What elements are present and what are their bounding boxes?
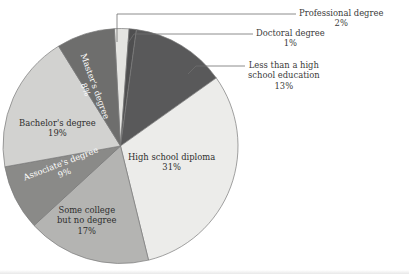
callout-less-than-high-school-value: 13%	[248, 81, 320, 91]
slice-label-some-college-line1: Some college	[57, 205, 116, 215]
slice-label-bachelors-degree-value: 19%	[19, 128, 96, 138]
slice-label-bachelors-degree-text: Bachelor's degree	[19, 118, 96, 128]
pie-slice-group	[3, 29, 238, 264]
slice-label-some-college: Some college but no degree 17%	[57, 205, 116, 236]
page-edge-artifact	[0, 270, 409, 274]
callout-doctoral-degree-value: 1%	[256, 38, 325, 48]
callout-less-than-high-school-line1: Less than a high	[248, 60, 320, 70]
slice-label-high-school-diploma-value: 31%	[128, 162, 215, 172]
callout-less-than-high-school-line2: school education	[248, 70, 320, 80]
callout-professional-degree: Professional degree 2%	[299, 8, 383, 29]
callout-professional-degree-label: Professional degree	[299, 8, 383, 18]
slice-label-some-college-line2: but no degree	[57, 215, 116, 225]
callout-less-than-high-school: Less than a high school education 13%	[248, 60, 320, 91]
callout-doctoral-degree-label: Doctoral degree	[256, 28, 325, 38]
slice-label-high-school-diploma: High school diploma 31%	[128, 152, 215, 173]
slice-label-some-college-value: 17%	[57, 226, 116, 236]
callout-doctoral-degree: Doctoral degree 1%	[256, 28, 325, 49]
slice-label-high-school-diploma-text: High school diploma	[128, 152, 215, 162]
pie-chart-figure: Professional degree 2% Doctoral degree 1…	[0, 0, 409, 274]
slice-label-bachelors-degree: Bachelor's degree 19%	[19, 118, 96, 139]
